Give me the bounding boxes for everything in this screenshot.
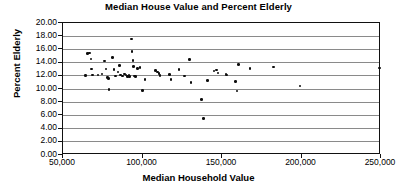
y-tick-label: 4.00	[0, 123, 57, 132]
scatter-chart: Median House Value and Percent Elderly P…	[0, 0, 397, 189]
x-tick-label: 50,000	[22, 157, 102, 167]
x-tick-label: 250,000	[340, 157, 397, 167]
data-point	[90, 68, 93, 71]
data-point	[178, 68, 181, 71]
data-point	[113, 68, 116, 71]
gridline	[63, 36, 379, 37]
plot-area	[62, 22, 380, 154]
gridline	[63, 75, 379, 76]
data-point	[206, 79, 209, 82]
x-tick-mark	[301, 154, 302, 158]
data-point	[272, 66, 275, 69]
data-point	[88, 52, 91, 55]
gridline	[63, 115, 379, 116]
data-point	[144, 78, 147, 81]
y-tick-label: 16.00	[0, 44, 57, 53]
gridline	[63, 62, 379, 63]
chart-title: Median House Value and Percent Elderly	[0, 1, 397, 13]
data-point	[90, 58, 93, 61]
data-point	[134, 75, 137, 78]
data-point	[217, 72, 220, 75]
data-point	[128, 75, 131, 78]
gridline	[63, 102, 379, 103]
data-point	[103, 60, 106, 63]
data-point	[131, 50, 134, 53]
data-point	[130, 38, 133, 41]
gridline	[63, 89, 379, 90]
y-tick-label: 2.00	[0, 136, 57, 145]
data-point	[141, 89, 144, 92]
data-point	[107, 77, 110, 80]
data-point	[114, 75, 117, 78]
data-point	[190, 81, 193, 84]
data-point	[84, 74, 87, 77]
gridline	[63, 141, 379, 142]
data-point	[249, 67, 252, 70]
gridline	[63, 49, 379, 50]
x-tick-mark	[62, 154, 63, 158]
y-tick-label: 8.00	[0, 97, 57, 106]
x-tick-label: 100,000	[102, 157, 182, 167]
data-point	[168, 73, 171, 76]
x-tick-label: 200,000	[261, 157, 341, 167]
data-point	[378, 67, 381, 70]
data-point	[132, 65, 135, 68]
y-tick-label: 20.00	[0, 18, 57, 27]
data-point	[111, 56, 114, 59]
data-point	[188, 58, 191, 61]
gridline	[63, 128, 379, 129]
data-point	[105, 68, 108, 71]
data-point	[299, 85, 302, 88]
x-tick-label: 150,000	[181, 157, 261, 167]
y-tick-label: 10.00	[0, 84, 57, 93]
x-tick-mark	[380, 154, 381, 158]
data-point	[200, 98, 203, 101]
data-point	[236, 90, 239, 93]
data-point	[237, 63, 240, 66]
data-point	[118, 64, 121, 67]
data-point	[225, 74, 228, 77]
x-axis-title: Median Household Value	[0, 172, 397, 183]
data-point	[139, 66, 142, 69]
data-point	[202, 117, 205, 120]
y-tick-label: 18.00	[0, 31, 57, 40]
data-point	[234, 80, 237, 83]
y-tick-label: 6.00	[0, 110, 57, 119]
y-tick-label: 12.00	[0, 70, 57, 79]
x-tick-mark	[221, 154, 222, 158]
data-point	[170, 78, 173, 81]
data-point	[121, 75, 124, 78]
data-point	[183, 75, 186, 78]
y-tick-label: 14.00	[0, 57, 57, 66]
x-tick-mark	[142, 154, 143, 158]
